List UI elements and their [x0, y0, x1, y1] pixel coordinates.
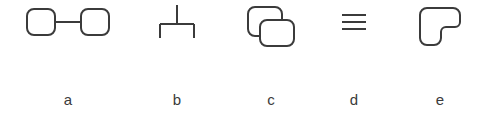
two-linked-rounded-squares-icon — [8, 0, 128, 60]
notched-rounded-square-icon — [396, 0, 484, 60]
figure-label-b: b — [132, 92, 222, 108]
figure-item-b: b — [132, 0, 222, 126]
figure-label-c: c — [228, 92, 314, 108]
figure-label-a: a — [8, 92, 128, 108]
figure-item-d: d — [316, 0, 392, 126]
figure-item-e: e — [396, 0, 484, 126]
figure-item-a: a — [8, 0, 128, 126]
figure-label-d: d — [316, 92, 392, 108]
two-overlapping-rounded-squares-icon — [228, 0, 314, 60]
inverted-tee-trident-icon — [132, 0, 222, 60]
three-horizontal-lines-icon — [316, 0, 392, 60]
figure-panel: a b — [0, 0, 484, 126]
figure-item-c: c — [228, 0, 314, 126]
figure-label-e: e — [396, 92, 484, 108]
